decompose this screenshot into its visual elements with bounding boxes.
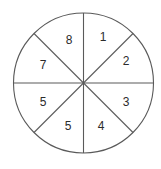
sector-label-8: 8 xyxy=(66,33,73,47)
wheel-diagram: 1 2 3 4 5 5 7 8 xyxy=(0,0,161,169)
sector-label-4: 4 xyxy=(98,119,105,133)
sector-label-1: 1 xyxy=(100,30,107,44)
sector-label-5b: 5 xyxy=(40,95,47,109)
sector-label-5a: 5 xyxy=(65,119,72,133)
sector-label-3: 3 xyxy=(123,95,130,109)
spinner-wheel-figure: 1 2 3 4 5 5 7 8 xyxy=(0,0,161,169)
sector-label-2: 2 xyxy=(123,54,130,68)
sector-label-7: 7 xyxy=(40,58,47,72)
